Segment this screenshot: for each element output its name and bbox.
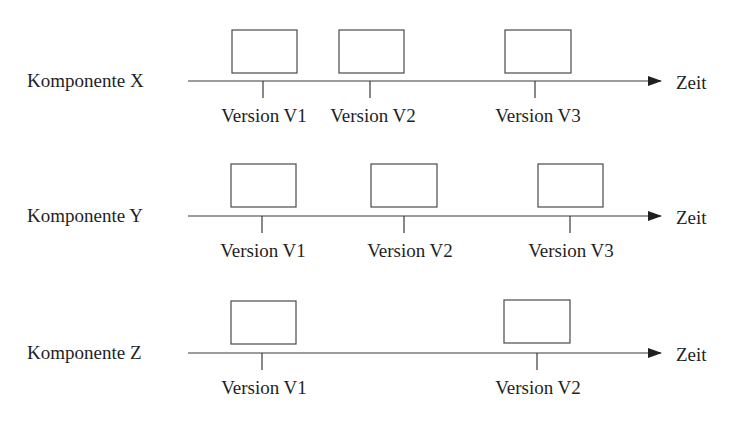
time-axis-label-z: Zeit bbox=[676, 344, 707, 366]
version-label-x-v1: Version V1 bbox=[221, 105, 307, 127]
version-box-y-v2 bbox=[371, 164, 437, 207]
version-label-z-v2: Version V2 bbox=[495, 377, 581, 399]
component-label-x: Komponente X bbox=[27, 70, 144, 92]
timeline-row-x bbox=[188, 30, 661, 98]
version-label-x-v2: Version V2 bbox=[330, 105, 416, 127]
version-box-x-v2 bbox=[339, 30, 404, 73]
version-box-y-v1 bbox=[231, 164, 296, 207]
version-label-y-v3: Version V3 bbox=[528, 240, 614, 262]
version-label-y-v2: Version V2 bbox=[367, 240, 453, 262]
timeline-row-z bbox=[188, 300, 661, 370]
diagram-canvas: Komponente X Zeit Version V1 Version V2 … bbox=[0, 0, 738, 424]
version-label-x-v3: Version V3 bbox=[495, 105, 581, 127]
version-box-x-v3 bbox=[505, 30, 571, 73]
version-label-z-v1: Version V1 bbox=[221, 377, 307, 399]
component-label-z: Komponente Z bbox=[27, 342, 142, 364]
version-box-y-v3 bbox=[538, 164, 603, 207]
component-label-y: Komponente Y bbox=[27, 205, 143, 227]
time-axis-label-x: Zeit bbox=[676, 72, 707, 94]
version-box-z-v1 bbox=[231, 301, 296, 344]
version-box-x-v1 bbox=[232, 30, 297, 73]
time-axis-label-y: Zeit bbox=[676, 207, 707, 229]
version-label-y-v1: Version V1 bbox=[220, 240, 306, 262]
timeline-row-y bbox=[188, 164, 661, 233]
version-box-z-v2 bbox=[504, 300, 570, 343]
